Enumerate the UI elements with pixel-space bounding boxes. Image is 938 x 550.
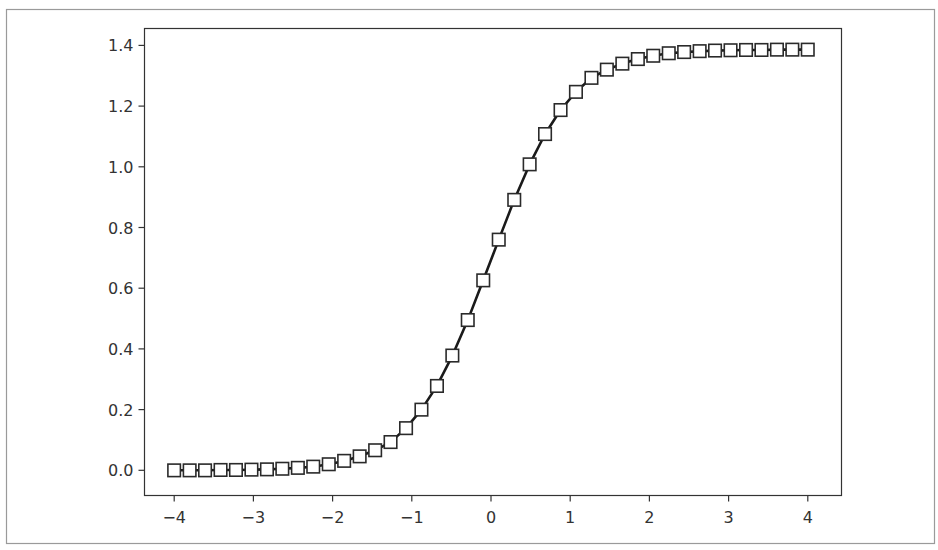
square-marker bbox=[802, 43, 815, 56]
square-marker bbox=[230, 464, 243, 477]
square-marker bbox=[724, 44, 737, 57]
square-marker bbox=[740, 44, 753, 57]
y-tick-label: 1.4 bbox=[108, 36, 133, 55]
square-marker bbox=[199, 464, 212, 477]
square-marker bbox=[369, 444, 382, 457]
y-tick-label: 0.8 bbox=[108, 219, 133, 238]
square-marker bbox=[400, 422, 413, 435]
square-marker bbox=[616, 57, 629, 70]
square-marker bbox=[307, 460, 320, 473]
square-marker bbox=[214, 464, 227, 477]
square-marker bbox=[168, 464, 181, 477]
square-marker bbox=[415, 403, 428, 416]
y-tick-label: 1.0 bbox=[108, 158, 133, 177]
square-marker bbox=[462, 314, 475, 327]
square-marker bbox=[477, 274, 490, 287]
square-marker bbox=[709, 44, 722, 57]
square-marker bbox=[493, 233, 506, 246]
x-tick-label: −4 bbox=[162, 508, 186, 527]
y-tick-label: 0.6 bbox=[108, 279, 133, 298]
chart: −4−3−2−101234 0.00.20.40.60.81.01.21.4 bbox=[0, 0, 938, 550]
square-marker bbox=[384, 436, 397, 449]
square-marker bbox=[261, 463, 274, 476]
square-marker bbox=[539, 128, 552, 141]
square-marker bbox=[353, 450, 366, 463]
square-marker bbox=[678, 46, 691, 59]
square-marker bbox=[276, 463, 289, 476]
square-marker bbox=[570, 86, 583, 99]
y-tick-label: 0.4 bbox=[108, 340, 133, 359]
square-marker bbox=[771, 43, 784, 56]
square-marker bbox=[431, 380, 444, 393]
square-marker bbox=[755, 44, 768, 57]
y-tick-label: 1.2 bbox=[108, 97, 133, 116]
square-marker bbox=[554, 104, 567, 117]
square-marker bbox=[647, 50, 660, 63]
square-marker bbox=[632, 53, 645, 66]
x-tick-label: 1 bbox=[565, 508, 575, 527]
x-tick-label: 4 bbox=[803, 508, 813, 527]
square-marker bbox=[523, 158, 536, 171]
square-marker bbox=[245, 463, 258, 476]
square-marker bbox=[323, 458, 336, 471]
plot-area: −4−3−2−101234 0.00.20.40.60.81.01.21.4 bbox=[108, 29, 841, 527]
y-tick-label: 0.2 bbox=[108, 401, 133, 420]
x-tick-label: 2 bbox=[644, 508, 654, 527]
square-marker bbox=[601, 63, 614, 76]
axes-box bbox=[145, 29, 842, 496]
square-marker bbox=[338, 455, 351, 468]
square-marker bbox=[585, 72, 598, 85]
x-tick-label: 0 bbox=[486, 508, 496, 527]
square-marker bbox=[508, 194, 521, 207]
x-tick-label: −2 bbox=[321, 508, 345, 527]
square-marker bbox=[446, 349, 459, 362]
square-marker bbox=[786, 43, 799, 56]
square-marker bbox=[183, 464, 196, 477]
y-tick-label: 0.0 bbox=[108, 461, 133, 480]
square-marker bbox=[693, 45, 706, 58]
square-marker bbox=[292, 462, 305, 475]
x-tick-label: −1 bbox=[400, 508, 424, 527]
x-tick-label: −3 bbox=[242, 508, 266, 527]
x-tick-label: 3 bbox=[724, 508, 734, 527]
square-marker bbox=[663, 47, 676, 60]
